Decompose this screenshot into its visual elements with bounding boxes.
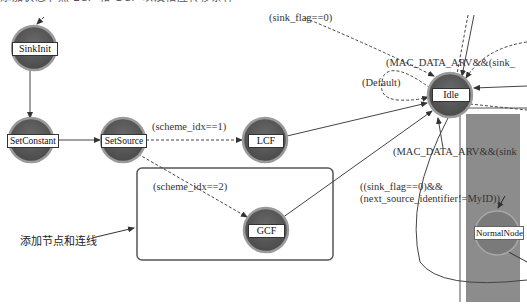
condition-next-source-line2: (next_source_identifier!=MyID))	[360, 193, 500, 205]
condition-mac-data-top: (MAC_DATA_ARV&&(sink_	[386, 57, 515, 69]
condition-sink-flag: (sink_flag==0)	[269, 12, 332, 24]
setconstant-label: SetConstant	[7, 134, 59, 148]
normalnode-label: NormalNode	[474, 226, 524, 240]
idle-label: Idle	[432, 88, 470, 102]
transition-idle-right-dashed[interactable]	[470, 104, 527, 110]
condition-mac-data-mid: (MAC_DATA_ARV&&(sink	[393, 146, 517, 158]
condition-next-source-line1: ((sink_flag==0)&&	[360, 181, 443, 193]
lcf-label: LCF	[248, 134, 284, 148]
condition-scheme-1: (scheme_idx==1)	[152, 121, 226, 133]
setsource-label: SetSource	[101, 134, 147, 148]
gcf-label: GCF	[248, 224, 285, 238]
sinkinit-label: SinkInit	[12, 42, 58, 56]
annotation-callout: 添加节点和连线	[20, 232, 97, 248]
condition-scheme-2: (scheme_idx==2)	[153, 181, 227, 193]
condition-default: (Default)	[362, 77, 400, 89]
transition-into-sinkinit[interactable]	[37, 17, 44, 24]
callout-arrow	[96, 228, 134, 237]
transition-right-idle[interactable]	[474, 86, 527, 88]
transition-lcf-idle[interactable]	[287, 103, 427, 136]
